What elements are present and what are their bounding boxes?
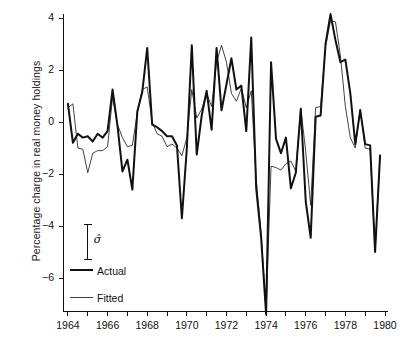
chart-plot-area (0, 0, 404, 344)
x-tick-label: 1974 (249, 319, 283, 331)
x-tick-label: 1972 (209, 319, 243, 331)
chart-figure: Percentage charge in real money holdings… (0, 0, 404, 344)
sigma-errorbar (84, 225, 92, 260)
y-tick-label: 0 (28, 115, 54, 127)
x-tick-label: 1980 (368, 319, 402, 331)
x-tick-label: 1970 (170, 319, 204, 331)
legend-lines (70, 270, 93, 297)
y-tick-label: 4 (28, 11, 54, 23)
x-tick-label: 1964 (51, 319, 85, 331)
y-tick-label: 2 (28, 63, 54, 75)
x-tick-label: 1978 (328, 319, 362, 331)
y-tick-label: −2 (28, 167, 54, 179)
sigma-hat-label: σ̂ (94, 233, 102, 246)
legend-label-actual: Actual (97, 265, 126, 277)
y-tick-label: −6 (28, 271, 54, 283)
x-tick-label: 1968 (130, 319, 164, 331)
y-tick-label: −4 (28, 219, 54, 231)
x-tick-label: 1966 (91, 319, 125, 331)
x-tick-label: 1976 (289, 319, 323, 331)
legend-label-fitted: Fitted (97, 292, 123, 304)
